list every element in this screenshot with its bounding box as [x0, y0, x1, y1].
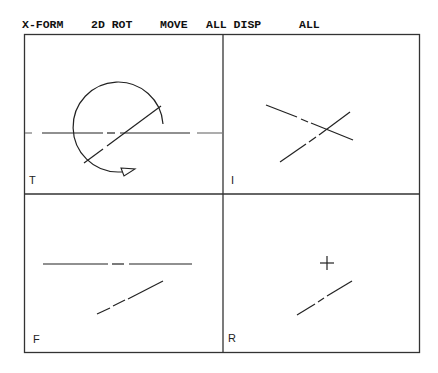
viewport-front[interactable]: F — [33, 264, 192, 345]
top-view-geometry — [25, 82, 222, 176]
viewport-label-t: T — [29, 174, 36, 186]
viewport-label-r: R — [228, 332, 236, 344]
viewport-label-i: I — [231, 174, 234, 186]
viewport-frame — [25, 35, 420, 353]
iso-view-geometry — [266, 105, 353, 162]
four-view-canvas[interactable]: T I F R — [0, 0, 438, 373]
rotation-arrowhead-icon — [121, 168, 135, 176]
viewport-right[interactable]: R — [228, 256, 352, 344]
front-view-geometry — [43, 264, 192, 314]
right-view-geometry — [297, 256, 352, 315]
rotation-arc — [73, 82, 163, 172]
viewport-top[interactable]: T — [25, 82, 222, 186]
viewport-isometric[interactable]: I — [231, 105, 353, 186]
viewport-label-f: F — [33, 333, 40, 345]
